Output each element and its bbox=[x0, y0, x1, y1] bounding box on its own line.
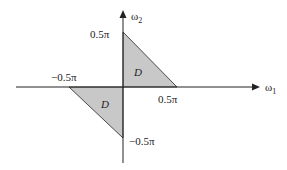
region-upper-right bbox=[123, 32, 177, 87]
tick-label-neg-w1: −0.5π bbox=[51, 71, 77, 83]
tick-label-pos-w2: 0.5π bbox=[90, 28, 110, 40]
tick-label-neg-w2: −0.5π bbox=[129, 135, 155, 147]
region-lower-left bbox=[69, 87, 123, 138]
w2-arrow-icon bbox=[120, 10, 127, 18]
w2-axis-label: ω2 bbox=[131, 10, 142, 25]
tick-label-pos-w1: 0.5π bbox=[158, 93, 178, 105]
w1-arrow-icon bbox=[252, 84, 260, 91]
region-label-lower: D bbox=[100, 98, 109, 110]
diagram-canvas: ω2 ω1 0.5π −0.5π 0.5π −0.5π D D bbox=[0, 0, 287, 170]
region-label-upper: D bbox=[133, 66, 142, 78]
w1-axis-label: ω1 bbox=[265, 81, 276, 96]
